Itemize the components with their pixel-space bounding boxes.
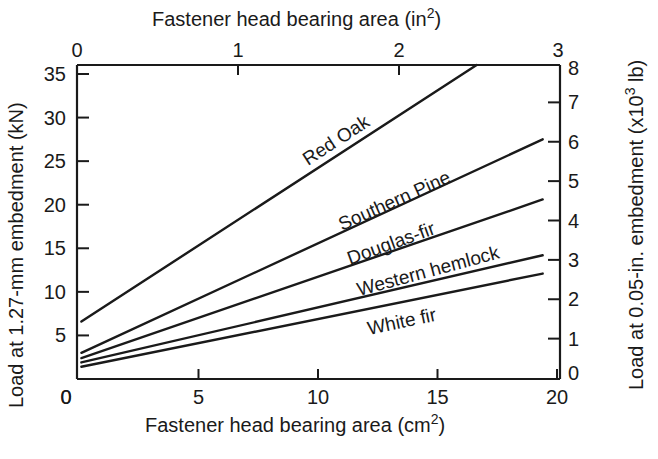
y2-tick-label: 7 [568,91,579,113]
chart: 05101520510152025303500123012345678 Red … [0,0,658,459]
series-line-douglas-fir [81,199,542,358]
y2-tick-label: 4 [568,210,579,232]
x-tick-label: 20 [546,386,568,408]
y2-tick-label: 1 [568,328,579,350]
y-tick-label: 20 [44,194,66,216]
y-tick-label: 10 [44,281,66,303]
y-zero-label: 0 [60,386,71,408]
y-axis-title: Load at 1.27-mm embedment (kN) [5,102,27,408]
y-tick-label: 30 [44,107,66,129]
series-line-western-hemlock [81,255,542,362]
y2-tick-label: 0 [568,362,579,384]
series-label-white-fir: White fir [365,304,438,339]
plot-frame [77,65,560,379]
x2-tick-label: 0 [71,39,82,61]
series-group [81,65,542,367]
x2-axis-title: Fastener head bearing area (in2) [152,5,441,30]
y2-tick-label: 8 [568,57,579,79]
y2-tick-label: 3 [568,249,579,271]
x2-tick-label: 2 [393,39,404,61]
y2-tick-label: 2 [568,288,579,310]
series-label-southern-pine: Southern Pine [335,166,454,234]
y2-tick-label: 6 [568,131,579,153]
y2-axis-title: Load at 0.05-in. embedment (x103 lb) [622,60,647,390]
y-tick-label: 35 [44,63,66,85]
x-tick-label: 15 [426,386,448,408]
y2-tick-label: 5 [568,170,579,192]
x-tick-label: 10 [307,386,329,408]
x-axis-title: Fastener head bearing area (cm2) [145,411,445,436]
x-tick-label: 5 [193,386,204,408]
x2-tick-label: 1 [232,39,243,61]
y-tick-label: 25 [44,150,66,172]
x2-tick-label: 3 [552,39,563,61]
y-tick-label: 5 [55,324,66,346]
y-tick-label: 15 [44,237,66,259]
